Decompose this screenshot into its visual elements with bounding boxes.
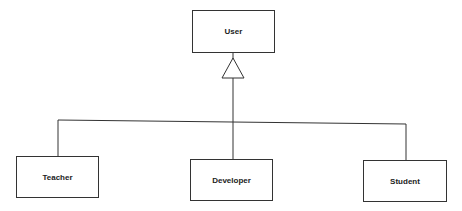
class-box-user[interactable]: User	[192, 10, 275, 53]
horizontal-bus-line	[58, 120, 406, 124]
class-box-teacher[interactable]: Teacher	[16, 156, 99, 198]
class-label-developer: Developer	[212, 176, 251, 185]
class-label-user: User	[225, 27, 243, 36]
class-box-developer[interactable]: Developer	[190, 159, 273, 201]
class-label-student: Student	[390, 177, 420, 186]
generalization-arrow-icon	[222, 58, 244, 78]
class-label-teacher: Teacher	[42, 173, 72, 182]
class-box-student[interactable]: Student	[363, 160, 447, 202]
